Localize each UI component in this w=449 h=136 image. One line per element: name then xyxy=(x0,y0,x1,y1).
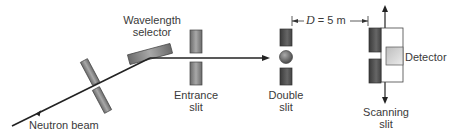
detector xyxy=(386,47,403,65)
label-wavelength-selector-line1: Wavelength xyxy=(117,14,187,26)
wavelength-selector-crystal xyxy=(127,43,172,64)
label-entrance-slit-line2: slit xyxy=(170,101,222,113)
label-scanning-slit-line2: slit xyxy=(361,118,411,130)
scanning-slit-upper xyxy=(369,28,381,52)
label-detector: Detector xyxy=(405,51,447,63)
label-neutron-beam: Neutron beam xyxy=(29,119,99,131)
entrance-slit-upper xyxy=(190,30,202,53)
label-scanning-slit-line1: Scanning xyxy=(361,106,411,118)
neutron-diffraction-diagram: Wavelength selector Entrance slit Double… xyxy=(0,0,449,136)
label-distance: D = 5 m xyxy=(304,14,348,26)
label-wavelength-selector-line2: selector xyxy=(117,26,187,38)
entrance-slit-lower xyxy=(190,62,202,85)
label-entrance-slit: Entrance slit xyxy=(170,89,222,113)
collimator-slit xyxy=(80,59,111,114)
dimension-arrow-left-icon xyxy=(292,19,298,23)
beam-arrow-icon xyxy=(262,55,270,61)
distance-symbol: D xyxy=(306,13,315,27)
double-slit xyxy=(280,29,293,85)
label-entrance-slit-line1: Entrance xyxy=(170,89,222,101)
scanning-slit-lower xyxy=(369,59,381,83)
neutron-beam-path xyxy=(12,55,270,126)
double-slit-lower xyxy=(280,68,292,85)
label-double-slit: Double slit xyxy=(266,89,306,113)
scanning-slit-assembly[interactable] xyxy=(369,5,403,104)
distance-value: = 5 m xyxy=(315,14,346,26)
label-double-slit-line1: Double xyxy=(266,89,306,101)
incident-beam-line xyxy=(12,58,150,126)
scan-down-arrow-icon xyxy=(382,97,388,104)
label-scanning-slit: Scanning slit xyxy=(361,106,411,130)
label-double-slit-line2: slit xyxy=(266,101,306,113)
collimator-slit-lower xyxy=(92,87,111,114)
double-slit-center-wire xyxy=(280,51,293,64)
dimension-arrow-right-icon xyxy=(362,19,368,23)
double-slit-upper xyxy=(280,29,292,46)
scan-up-arrow-icon xyxy=(382,5,388,12)
collimator-slit-upper xyxy=(80,59,99,86)
label-wavelength-selector: Wavelength selector xyxy=(117,14,187,38)
